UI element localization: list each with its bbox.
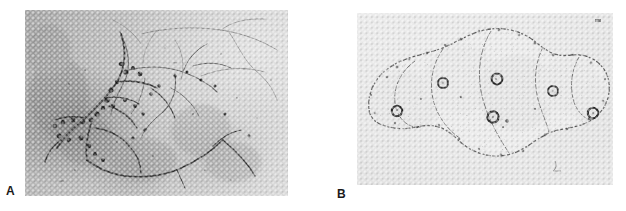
panel-b-cells-layer bbox=[357, 13, 613, 185]
micrograph-panel-a bbox=[25, 10, 288, 196]
panel-a-hyphae-layer bbox=[25, 10, 288, 196]
panel-b-corner-fleck bbox=[595, 19, 601, 22]
panel-b-artifact-mark bbox=[553, 161, 561, 171]
panel-a-debris-cloud bbox=[27, 24, 261, 182]
figure-root: A B bbox=[0, 0, 626, 211]
panel-a-hyphae-faint bbox=[113, 19, 277, 100]
panel-label-b: B bbox=[337, 188, 346, 200]
panel-label-a: A bbox=[6, 185, 15, 197]
panel-b-cell-chain bbox=[357, 13, 613, 185]
micrograph-panel-b bbox=[357, 13, 613, 185]
